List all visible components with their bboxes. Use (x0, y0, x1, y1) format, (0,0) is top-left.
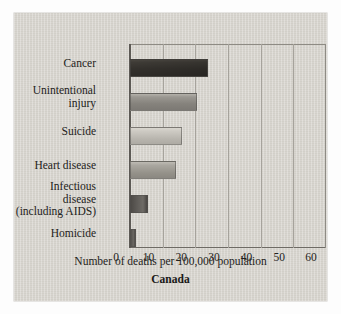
bar-fill (130, 229, 136, 247)
bar-homicide (130, 229, 136, 247)
x-axis-title: Number of deaths per 100,000 population (14, 255, 327, 267)
bar-fill (130, 195, 148, 213)
category-label-cancer: Cancer (63, 57, 96, 70)
bar-heart-disease (130, 161, 176, 179)
bar-fill (130, 93, 197, 111)
gridline-30 (228, 44, 229, 248)
figure: Cancer Unintentional injury Suicide Hear… (0, 0, 341, 314)
gridline-60 (325, 44, 326, 248)
category-label-infectious-disease: Infectious disease (including AIDS) (16, 180, 96, 218)
bar-fill (130, 161, 176, 179)
bar-suicide (130, 127, 182, 145)
gridline-50 (293, 44, 294, 248)
category-label-suicide: Suicide (62, 125, 97, 138)
bar-fill (130, 127, 182, 145)
bar-cancer (130, 59, 208, 77)
bar-infectious-disease (130, 195, 148, 213)
chart-subtitle: Canada (14, 273, 327, 285)
category-label-homicide: Homicide (51, 227, 96, 240)
plot-area (130, 44, 326, 248)
bar-unintentional-injury (130, 93, 197, 111)
category-label-unintentional-injury: Unintentional injury (33, 84, 96, 109)
category-label-heart-disease: Heart disease (34, 159, 96, 172)
gridline-40 (261, 44, 262, 248)
bar-fill (130, 59, 208, 77)
